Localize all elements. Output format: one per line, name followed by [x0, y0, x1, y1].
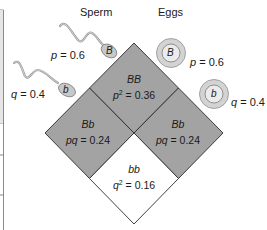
- punnett-diagram-graphics: [0, 0, 267, 230]
- cell-Bb-right: Bb pq = 0.24: [138, 116, 218, 149]
- egg-B-allele: B: [167, 48, 174, 58]
- eggs-header: Eggs: [158, 7, 183, 18]
- sperm-header: Sperm: [80, 7, 112, 18]
- cell-bb: bb q2 = 0.16: [94, 161, 174, 194]
- egg-b-allele: b: [211, 89, 217, 99]
- egg-b-frequency: q = 0.4: [231, 97, 265, 108]
- sperm-B-frequency: p = 0.6: [51, 50, 85, 61]
- sperm-B-allele: B: [106, 46, 113, 56]
- egg-B-frequency: p = 0.6: [190, 57, 224, 68]
- cell-Bb-left: Bb pq = 0.24: [48, 116, 128, 149]
- sperm-b-frequency: q = 0.4: [11, 89, 45, 100]
- cell-BB: BB p2 = 0.36: [94, 71, 174, 104]
- sperm-b-allele: b: [63, 85, 69, 95]
